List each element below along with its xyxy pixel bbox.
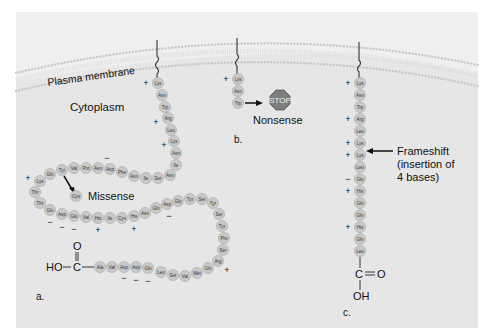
charge-sign: + [143,78,148,88]
amino-acid-label: Lys [357,153,365,158]
panel-label-c: c. [343,307,351,318]
amino-acid-label: Tyr [210,201,217,206]
amino-acid-label: Leu [356,129,364,134]
amino-acid-label: Leu [167,128,175,133]
amino-acid-label: Tyr [187,197,194,202]
amino-acid-label: Ser [198,197,206,202]
amino-acid-label: Glu [46,208,54,213]
svg-text:STOP: STOP [269,96,291,105]
amino-acid-label: Ile [144,176,149,181]
charge-sign: − [71,224,76,234]
amino-acid-label: Val [182,274,188,279]
amino-acid-label: Gln [152,206,160,211]
amino-acid-label: Gln [356,201,364,206]
svg-text:C: C [355,268,363,280]
charge-sign: + [345,138,350,148]
amino-acid-label: Leu [356,165,364,170]
amino-acid-label: Pro [220,236,228,241]
mutant-residue: Cys [70,190,81,201]
charge-sign: + [153,117,158,127]
charge-sign: − [47,217,52,227]
charge-sign: − [345,174,350,184]
amino-acid-label: Asn [234,89,242,94]
amino-acid-label: Trp [357,105,364,110]
amino-acid-label: Ala [97,265,104,270]
amino-acid-label: Lys [37,179,45,184]
amino-acid-label: Ile [108,216,113,221]
amino-acid-label: Lys [357,141,365,146]
charge-sign: + [345,78,350,88]
svg-text:O: O [377,268,386,280]
charge-sign: + [224,265,229,275]
amino-acid-label: Lys [171,139,179,144]
amino-acid-label: Tyr [59,168,66,173]
amino-acid-label: Ser [219,248,227,253]
mutation-diagram: Plasma membrane Cytoplasm Lys+AsnTrpArg+… [0,0,488,336]
amino-acid-label: Tyr [219,224,226,229]
frameshift-label-line2: (insertion of [397,158,455,170]
charge-sign: + [223,74,228,84]
amino-acid-label: Ser [215,212,223,217]
amino-acid-label: Cys [118,216,127,221]
amino-acid-label: Asn [158,93,166,98]
charge-sign: − [59,222,64,232]
nonsense-label: Nonsense [253,114,303,126]
amino-acid-label: Asp [163,202,171,207]
amino-acid-label: Lys [357,81,365,86]
charge-sign: − [145,276,150,286]
amino-acid-label: Asn [356,93,364,98]
amino-acid-label: His [95,216,102,221]
amino-acid-label: Val [71,166,77,171]
amino-acid-label: Arg [356,117,364,122]
amino-acid-label: His [357,189,364,194]
amino-acid-label: Met [193,271,201,276]
amino-acid-label: Asn [172,151,180,156]
charge-sign: − [104,153,109,163]
amino-acid-label: Val [109,265,115,270]
frameshift-label: Frameshift [397,145,449,157]
amino-acid-label: Arg [214,259,222,264]
amino-acid-label: Lys [155,81,163,86]
amino-acid-label: Thr [37,201,44,206]
amino-acid-label: Gln [46,172,54,177]
amino-acid-label: Trp [235,101,242,106]
frameshift-label-line3: 4 bases) [397,171,439,183]
charge-sign: + [345,186,350,196]
amino-acid-label: Trp [162,105,169,110]
amino-acid-label: Asp [58,212,66,217]
panel-label-b: b. [234,134,242,145]
amino-acid-label: Phe [118,170,127,175]
amino-acid-label: His [357,225,364,230]
amino-acid-label: Arg [164,116,172,121]
amino-acid-label: Leu [356,249,364,254]
amino-acid-label: Glu [70,214,78,219]
amino-acid-label: Asn [141,211,149,216]
amino-acid-label: Lys [235,77,243,82]
cytoplasm-label: Cytoplasm [70,101,124,113]
amino-acid-label: Pro [82,166,90,171]
panel-label-a: a. [36,291,44,302]
charge-sign: − [166,211,171,221]
amino-acid-label: Ile [174,163,179,168]
amino-acid-label: His [131,214,138,219]
svg-text:C: C [73,261,81,273]
amino-acid-label: Val [83,215,89,220]
svg-text:HO: HO [46,261,63,273]
amino-acid-label: Gly [175,199,183,204]
amino-acid-label: Asp [106,167,114,172]
charge-sign: − [133,275,138,285]
amino-acid-label: Gln [204,266,212,271]
charge-sign: + [345,222,350,232]
amino-acid-label: Asn [94,166,102,171]
charge-sign: − [121,273,126,283]
amino-acid-label: Gln [356,213,364,218]
amino-acid-label: Glu [356,177,364,182]
charge-sign: + [25,173,30,183]
charge-sign: + [95,225,100,235]
amino-acid-label: Ser [154,176,162,181]
amino-acid-label: Leu [157,270,165,275]
amino-acid-label: Asp [120,265,128,270]
amino-acid-label: Ser [169,273,177,278]
charge-sign: + [345,150,350,160]
amino-acid-label: Asn [130,174,138,179]
